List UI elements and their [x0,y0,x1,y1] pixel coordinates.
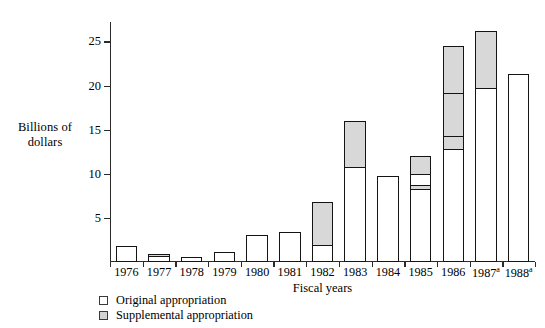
bar-1988[interactable] [508,73,530,261]
bar-segment-supplemental [312,202,334,246]
y-tick-label: 10 [89,166,102,181]
figure: Billions of dollars 510152025 1976197719… [0,0,545,328]
bar-1986[interactable] [443,40,465,261]
footnote-marker: a [529,265,533,274]
x-tick-label-1981: 1981 [278,265,302,280]
bar-1977[interactable] [148,251,170,261]
x-tick-label-1983: 1983 [343,265,367,280]
bar-1978[interactable] [181,254,203,261]
bar-series-group [110,22,535,262]
bar-1985[interactable] [410,151,432,261]
bar-1981[interactable] [279,230,301,261]
x-tick-label-1986: 1986 [441,265,465,280]
x-tick-label-1984: 1984 [376,265,400,280]
bar-1976[interactable] [116,244,138,261]
bar-1984[interactable] [377,175,399,261]
x-tick-label-1976: 1976 [114,265,138,280]
bar-segment-original [181,257,203,262]
legend: Original appropriationSupplemental appro… [99,293,253,323]
x-axis-title-text: Fiscal years [293,281,352,295]
bar-segment-supplemental [443,93,465,137]
x-tick-label-1980: 1980 [245,265,269,280]
bar-segment-original [344,167,366,262]
x-tick-label-1979: 1979 [212,265,236,280]
bar-segment-supplemental [410,156,432,175]
bar-segment-supplemental [475,31,497,89]
legend-item-supplemental[interactable]: Supplemental appropriation [99,308,253,323]
bar-segment-original [246,235,268,262]
bar-1982[interactable] [312,199,334,261]
y-tick-label: 25 [89,34,102,49]
legend-swatch-original [99,296,108,305]
legend-swatch-supplemental [99,311,108,320]
x-tick-label-1988: 1988a [505,265,533,281]
bar-segment-original [214,252,236,263]
bar-1979[interactable] [214,250,236,261]
bar-segment-original [508,74,530,262]
bar-segment-original [443,149,465,262]
y-axis-label: Billions of dollars [6,120,84,150]
bar-segment-original [377,176,399,262]
bar-1987[interactable] [475,28,497,261]
bar-segment-original [116,246,138,263]
bar-segment-original [410,189,432,262]
bar-segment-supplemental [443,46,465,95]
y-tick-label: 5 [95,210,101,225]
bar-segment-original [148,256,170,262]
x-tick-label-1978: 1978 [180,265,204,280]
legend-label: Original appropriation [116,293,226,308]
y-tick-label: 20 [89,78,102,93]
x-tick-mark [535,262,536,267]
x-axis-tick-labels: 1976197719781979198019811982198319841985… [110,265,535,281]
legend-label: Supplemental appropriation [116,308,253,323]
x-tick-label-1987: 1987a [472,265,500,281]
x-tick-label-1985: 1985 [408,265,432,280]
y-tick-label: 15 [89,122,102,137]
bar-segment-original [279,232,301,263]
bar-segment-original [312,245,334,263]
x-tick-label-1977: 1977 [147,265,171,280]
legend-item-original[interactable]: Original appropriation [99,293,253,308]
plot-area: 510152025 [110,22,535,262]
bar-1983[interactable] [344,118,366,261]
footnote-marker: a [496,265,500,274]
x-tick-label-1982: 1982 [310,265,334,280]
bar-segment-supplemental [344,121,366,169]
y-axis-label-text: Billions of dollars [18,120,72,149]
bar-segment-original [475,88,497,263]
bar-1980[interactable] [246,234,268,261]
